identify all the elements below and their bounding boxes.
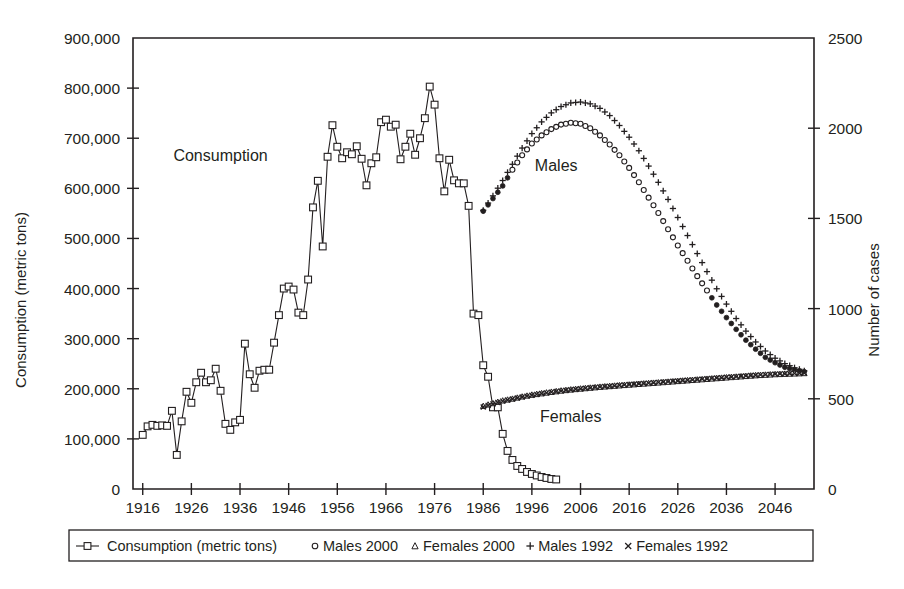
annotation-consumption: Consumption [173, 147, 267, 164]
data-point-circle [515, 160, 520, 165]
data-point-filled-circle [739, 332, 744, 337]
data-point-square [407, 130, 414, 137]
data-point-circle [520, 153, 525, 158]
data-point-filled-circle [748, 342, 753, 347]
data-point-filled-circle [724, 315, 729, 320]
data-point-square [504, 448, 511, 455]
legend-item-label: Females 1992 [636, 538, 728, 554]
data-point-square [241, 340, 248, 347]
x-tick-label: 2016 [612, 499, 646, 516]
data-point-circle [573, 121, 578, 126]
data-point-square [373, 154, 380, 161]
y-tick-label: 100,000 [64, 431, 120, 448]
data-point-square [485, 373, 492, 380]
data-point-square [421, 115, 428, 122]
x-tick-label: 1976 [417, 499, 451, 516]
axis-ticks: 0100,000200,000300,000400,000500,000600,… [64, 30, 863, 516]
data-point-square [319, 243, 326, 250]
data-point-filled-circle [763, 355, 768, 360]
data-point-circle [680, 251, 685, 256]
x-tick-label: 1966 [369, 499, 403, 516]
y2-axis-title: Number of cases [865, 243, 882, 356]
data-point-square [188, 399, 195, 406]
data-point-square [164, 422, 171, 429]
x-tick-label: 2036 [709, 499, 743, 516]
data-point-circle [690, 266, 695, 271]
data-point-circle [617, 153, 622, 158]
data-point-circle [525, 147, 530, 152]
legend-item-consumption-metric-tons[interactable]: Consumption (metric tons) [76, 538, 277, 554]
data-point-circle [544, 130, 549, 135]
data-point-square [266, 366, 273, 373]
data-point-circle [627, 165, 632, 170]
series-consumption-metric-tons [139, 83, 559, 483]
y-tick-label: 800,000 [64, 80, 120, 97]
data-point-square [499, 430, 506, 437]
data-point-square [139, 431, 146, 438]
data-point-square [178, 418, 185, 425]
data-point-filled-circle [505, 175, 510, 180]
data-point-circle [583, 123, 588, 128]
data-point-square [227, 426, 234, 433]
data-point-square [553, 476, 560, 483]
data-point-square [305, 276, 312, 283]
y2-tick-label: 2500 [828, 30, 863, 47]
data-point-circle [700, 281, 705, 286]
data-point-square [441, 188, 448, 195]
series-males-1992 [480, 99, 807, 374]
data-point-circle [636, 180, 641, 185]
data-point-circle [529, 141, 534, 146]
data-point-square [480, 362, 487, 369]
data-point-square [426, 83, 433, 90]
legend-item-label: Consumption (metric tons) [107, 538, 277, 554]
y-tick-label: 400,000 [64, 281, 120, 298]
y2-tick-label: 0 [828, 481, 837, 498]
data-point-filled-circle [758, 351, 763, 356]
x-tick-label: 1936 [223, 499, 257, 516]
data-point-square [193, 379, 200, 386]
data-point-square [465, 202, 472, 209]
data-point-circle [539, 133, 544, 138]
data-point-circle [675, 243, 680, 248]
chart-canvas: Consumption (metric tons) Number of case… [0, 0, 904, 589]
legend-item-males-1992[interactable]: Males 1992 [526, 538, 613, 554]
data-point-circle [632, 173, 637, 178]
data-point-square [460, 180, 467, 187]
data-point-circle [695, 274, 700, 279]
data-point-circle [559, 122, 564, 127]
plot-annotations: ConsumptionMalesFemales [173, 147, 601, 425]
data-point-square [412, 151, 419, 158]
legend-item-females-2000[interactable]: Females 2000 [412, 538, 515, 554]
data-point-circle [563, 121, 568, 126]
data-point-circle [656, 210, 661, 215]
data-point-filled-circle [719, 309, 724, 314]
annotation-females: Females [540, 408, 601, 425]
data-point-square [397, 156, 404, 163]
legend-item-males-2000[interactable]: Males 2000 [312, 538, 398, 554]
data-point-circle [568, 120, 573, 125]
data-point-square [353, 143, 360, 150]
data-point-square [173, 452, 180, 459]
y2-tick-label: 1500 [828, 210, 863, 227]
x-tick-label: 1956 [320, 499, 354, 516]
data-point-square [348, 151, 355, 158]
y-tick-label: 900,000 [64, 30, 120, 47]
x-tick-label: 1926 [174, 499, 208, 516]
data-point-circle [661, 219, 666, 224]
data-point-square [207, 377, 214, 384]
data-point-circle [622, 159, 627, 164]
legend-item-label: Females 2000 [423, 538, 515, 554]
y2-tick-label: 2000 [828, 120, 863, 137]
data-point-square [310, 204, 317, 211]
y2-tick-label: 500 [828, 391, 854, 408]
data-point-circle [670, 235, 675, 240]
y-tick-label: 200,000 [64, 381, 120, 398]
data-point-square [169, 407, 176, 414]
data-point-square [314, 177, 321, 184]
data-point-square [217, 387, 224, 394]
data-point-circle [534, 137, 539, 142]
data-point-circle [593, 129, 598, 134]
chart-legend[interactable]: Consumption (metric tons)Males 2000Femal… [69, 530, 813, 561]
chart-figure: Consumption (metric tons) Number of case… [0, 0, 904, 589]
legend-item-females-1992[interactable]: Females 1992 [625, 538, 728, 554]
